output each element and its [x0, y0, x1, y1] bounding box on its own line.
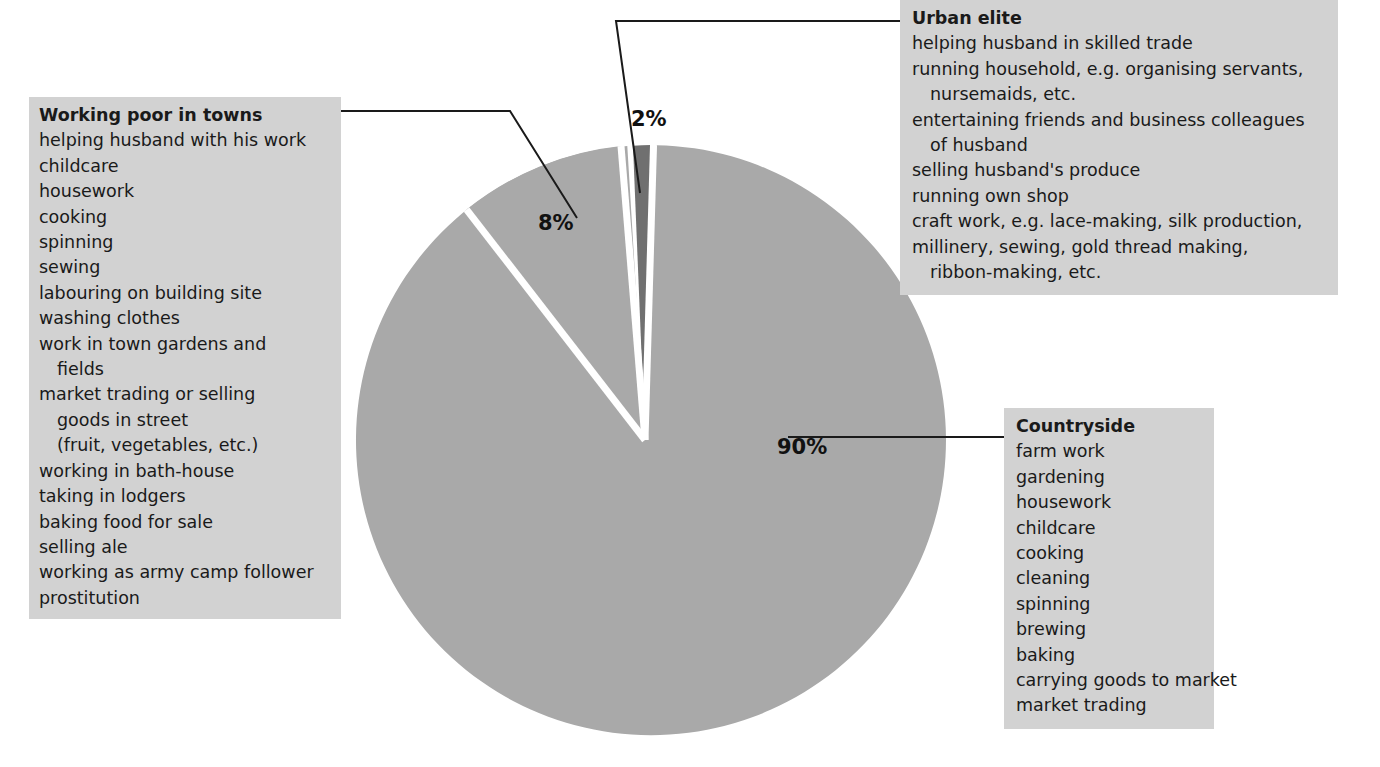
callout-list-item: labouring on building site — [39, 281, 333, 306]
callout-box-urban-elite[interactable]: Urban elite helping husband in skilled t… — [900, 0, 1338, 295]
callout-list-item: of husband — [912, 133, 1330, 158]
callout-list-item: taking in lodgers — [39, 484, 333, 509]
callout-list-item: selling husband's produce — [912, 158, 1330, 183]
callout-list-item: washing clothes — [39, 306, 333, 331]
callout-list-item: cleaning — [1016, 566, 1206, 591]
callout-list-urban-elite: helping husband in skilled traderunning … — [912, 31, 1330, 285]
callout-list-item: running own shop — [912, 184, 1330, 209]
callout-list-item: millinery, sewing, gold thread making, — [912, 235, 1330, 260]
callout-title-working-poor: Working poor in towns — [39, 103, 333, 128]
callout-list-item: prostitution — [39, 586, 333, 611]
callout-list-item: selling ale — [39, 535, 333, 560]
callout-list-item: market trading — [1016, 693, 1206, 718]
callout-list-item: childcare — [1016, 516, 1206, 541]
callout-list-item: housework — [39, 179, 333, 204]
callout-list-item: childcare — [39, 154, 333, 179]
callout-list-item: housework — [1016, 490, 1206, 515]
callout-list-item: cooking — [39, 205, 333, 230]
callout-list-item: fields — [39, 357, 333, 382]
callout-list-item: entertaining friends and business collea… — [912, 108, 1330, 133]
callout-list-item: working in bath-house — [39, 459, 333, 484]
callout-title-countryside: Countryside — [1016, 414, 1206, 439]
callout-list-item: brewing — [1016, 617, 1206, 642]
percent-label-working-poor: 8% — [538, 211, 574, 235]
callout-list-item: gardening — [1016, 465, 1206, 490]
callout-list-item: farm work — [1016, 439, 1206, 464]
callout-list-item: sewing — [39, 255, 333, 280]
callout-box-working-poor[interactable]: Working poor in towns helping husband wi… — [29, 97, 341, 619]
callout-list-item: goods in street — [39, 408, 333, 433]
callout-list-item: helping husband with his work — [39, 128, 333, 153]
callout-title-urban-elite: Urban elite — [912, 6, 1330, 31]
callout-list-item: (fruit, vegetables, etc.) — [39, 433, 333, 458]
callout-list-item: market trading or selling — [39, 382, 333, 407]
callout-list-item: running household, e.g. organising serva… — [912, 57, 1330, 82]
callout-list-working-poor: helping husband with his workchildcareho… — [39, 128, 333, 611]
callout-list-item: ribbon-making, etc. — [912, 260, 1330, 285]
callout-list-item: work in town gardens and — [39, 332, 333, 357]
callout-list-item: spinning — [39, 230, 333, 255]
callout-list-item: working as army camp follower — [39, 560, 333, 585]
callout-list-item: carrying goods to market — [1016, 668, 1206, 693]
percent-label-urban-elite: 2% — [631, 107, 667, 131]
callout-list-item: baking food for sale — [39, 510, 333, 535]
callout-list-item: baking — [1016, 643, 1206, 668]
callout-box-countryside[interactable]: Countryside farm workgardeninghouseworkc… — [1004, 408, 1214, 729]
infographic-canvas: 2% 8% 90% Working poor in towns helping … — [0, 0, 1380, 767]
callout-list-item: spinning — [1016, 592, 1206, 617]
callout-list-item: helping husband in skilled trade — [912, 31, 1330, 56]
callout-list-item: nursemaids, etc. — [912, 82, 1330, 107]
percent-label-countryside: 90% — [777, 435, 827, 459]
callout-list-countryside: farm workgardeninghouseworkchildcarecook… — [1016, 439, 1206, 718]
callout-list-item: cooking — [1016, 541, 1206, 566]
callout-list-item: craft work, e.g. lace-making, silk produ… — [912, 209, 1330, 234]
